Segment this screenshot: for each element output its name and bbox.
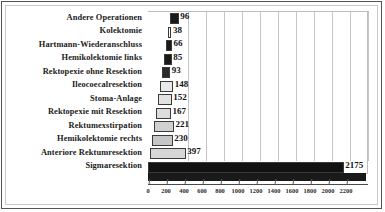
bar (166, 40, 172, 51)
x-axis-line (148, 184, 368, 185)
bar (152, 135, 173, 146)
bar (162, 67, 170, 78)
x-tick-label: 1000 (228, 187, 248, 194)
value-label: 167 (173, 107, 187, 116)
x-tick-label: 2000 (318, 187, 338, 194)
bar (158, 94, 172, 105)
x-tick-label: 2200 (336, 187, 356, 194)
x-tick-label: 800 (210, 187, 230, 194)
value-label: 96 (180, 12, 189, 21)
bar (156, 108, 171, 119)
bar (168, 27, 171, 38)
x-tick-label: 200 (156, 187, 176, 194)
bar (164, 54, 172, 65)
value-label: 397 (187, 147, 201, 156)
bar (154, 121, 174, 132)
chart-page: Andere OperationenKolektomieHartmann-Wie… (0, 0, 385, 212)
bar (170, 13, 179, 24)
bar (148, 162, 344, 173)
bars-series (0, 0, 385, 212)
value-label: 66 (173, 39, 182, 48)
x-tick-label: 1800 (300, 187, 320, 194)
x-tick-label: 0 (138, 187, 158, 194)
x-tick-label: 600 (192, 187, 212, 194)
value-label: 221 (175, 120, 189, 129)
value-label: 38 (173, 26, 182, 35)
value-label: 148 (175, 80, 189, 89)
value-label: 152 (173, 93, 187, 102)
x-tick-label: 1200 (246, 187, 266, 194)
x-tick-label: 1400 (264, 187, 284, 194)
value-label: 85 (173, 53, 182, 62)
bar (150, 148, 186, 159)
value-label: 93 (172, 66, 181, 75)
bar (160, 81, 173, 92)
x-tick-label: 1600 (282, 187, 302, 194)
value-label: 2175 (345, 161, 363, 170)
x-tick-label: 400 (174, 187, 194, 194)
value-label: 230 (174, 134, 188, 143)
